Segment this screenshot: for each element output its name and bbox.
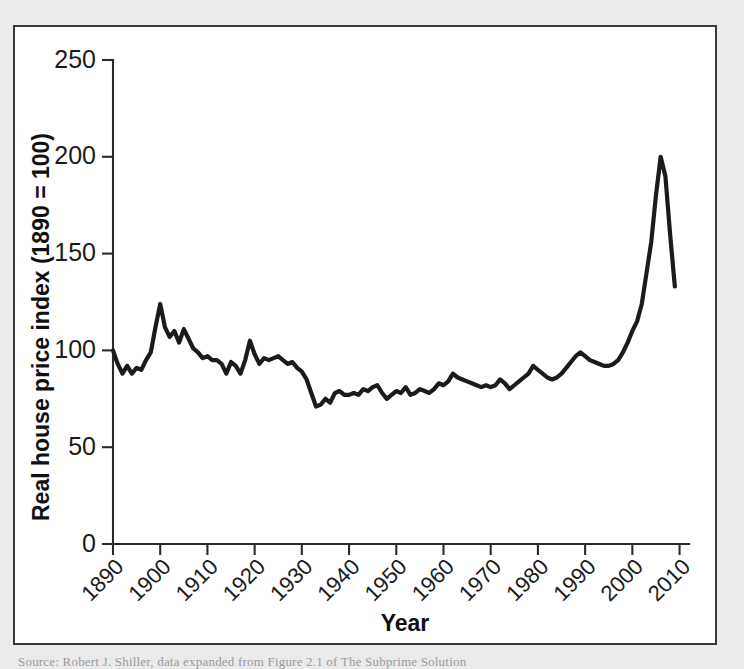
axis-spine bbox=[113, 60, 689, 544]
y-tick-label: 250 bbox=[54, 45, 96, 73]
x-tick-label: 1980 bbox=[501, 554, 553, 606]
source-caption: Source: Robert J. Shiller, data expanded… bbox=[0, 655, 744, 669]
source-caption-text: Source: Robert J. Shiller, data expanded… bbox=[18, 655, 466, 669]
x-axis-title: Year bbox=[381, 610, 430, 636]
figure-panel: 050100150200250 189019001910192019301940… bbox=[13, 25, 717, 645]
series-line bbox=[113, 157, 675, 407]
x-tick-label: 1920 bbox=[218, 554, 270, 606]
house-price-index-chart: 050100150200250 189019001910192019301940… bbox=[15, 27, 715, 643]
y-tick-label: 200 bbox=[54, 141, 96, 169]
y-tick-labels: 050100150200250 bbox=[54, 45, 96, 557]
x-tick-label: 1910 bbox=[171, 554, 223, 606]
x-tick-label: 1950 bbox=[360, 554, 412, 606]
y-tick-label: 0 bbox=[82, 529, 96, 557]
x-tick-label: 1900 bbox=[123, 554, 175, 606]
x-tick-label: 1990 bbox=[548, 554, 600, 606]
x-tick-labels: 1890190019101920193019401950196019701980… bbox=[76, 554, 695, 606]
x-tick-label: 1940 bbox=[312, 554, 364, 606]
x-tick-label: 1960 bbox=[407, 554, 459, 606]
chart-ticks bbox=[102, 60, 680, 555]
x-tick-label: 1970 bbox=[454, 554, 506, 606]
y-tick-label: 100 bbox=[54, 335, 96, 363]
y-axis-title: Real house price index (1890 = 100) bbox=[28, 133, 54, 521]
y-tick-label: 150 bbox=[54, 238, 96, 266]
x-tick-label: 2000 bbox=[596, 554, 648, 606]
x-tick-label: 1890 bbox=[76, 554, 128, 606]
x-tick-label: 2010 bbox=[643, 554, 695, 606]
y-tick-label: 50 bbox=[68, 432, 96, 460]
x-tick-label: 1930 bbox=[265, 554, 317, 606]
data-series bbox=[113, 157, 675, 407]
chart-axes bbox=[113, 60, 689, 544]
